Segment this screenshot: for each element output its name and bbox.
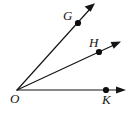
point-dot-g (75, 20, 81, 26)
vertex-label-o: O (10, 91, 20, 106)
ray-oh (17, 42, 121, 90)
figure-canvas: O G H K (0, 0, 128, 114)
point-label-k: K (101, 92, 112, 107)
geometry-figure: O G H K (0, 0, 128, 114)
ray-oh-arrowhead-icon (111, 42, 121, 49)
point-label-h: H (88, 35, 99, 50)
ray-ok-arrowhead-icon (116, 87, 126, 94)
point-label-g: G (63, 8, 73, 23)
ray-og (17, 3, 95, 90)
ray-og-arrowhead-icon (85, 3, 95, 12)
